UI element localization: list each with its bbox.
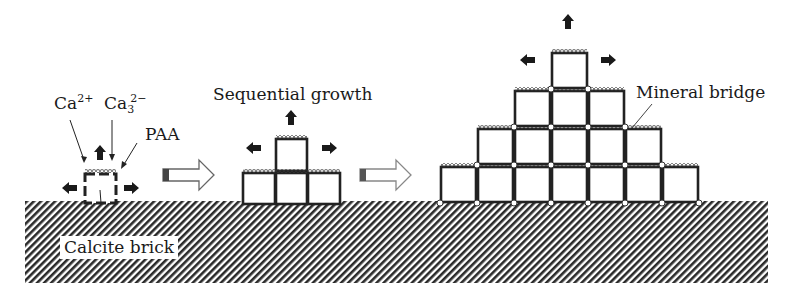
carbonate-ion-label: Ca32−: [104, 93, 146, 115]
mineral-bridge-node: [585, 200, 591, 206]
ca-ion-label: Ca2+: [54, 93, 93, 112]
mineral-bridge-node: [622, 124, 628, 130]
calcite-brick: [478, 129, 513, 164]
calcite-brick: [663, 167, 698, 202]
calcite-brick: [626, 167, 661, 202]
sequential-growth-label: Sequential growth: [213, 86, 372, 103]
mineral-bridge-node: [511, 162, 517, 168]
mineral-bridge-node: [585, 86, 591, 92]
calcite-brick-label: Calcite brick: [60, 236, 178, 259]
calcite-brick: [441, 167, 476, 202]
mineral-bridge-node: [622, 162, 628, 168]
calcite-brick: [552, 53, 587, 88]
stage-sequential-growth: [243, 110, 340, 204]
mineral-bridge-node: [548, 162, 554, 168]
growth-diagram: [0, 0, 792, 305]
mineral-bridge-node: [622, 200, 628, 206]
solid-arrow-icon: [520, 54, 535, 66]
calcite-brick: [626, 129, 661, 164]
calcite-brick: [515, 91, 550, 126]
calcite-brick: [552, 129, 587, 164]
solid-arrow-icon: [562, 14, 574, 29]
stage-nucleus: [62, 120, 139, 203]
calcite-brick: [589, 167, 624, 202]
calcite-brick: [552, 167, 587, 202]
mineral-bridge-node: [548, 200, 554, 206]
mineral-bridge-node: [511, 124, 517, 130]
mineral-bridge-node: [474, 200, 480, 206]
mineral-bridge-node: [511, 200, 517, 206]
mineral-bridge-node: [585, 124, 591, 130]
mineral-bridge-node: [437, 200, 443, 206]
calcite-brick: [515, 129, 550, 164]
paa-label: PAA: [145, 126, 179, 143]
mineral-bridge-node: [548, 124, 554, 130]
stage-pyramid: [437, 14, 702, 206]
mineral-bridge-node: [585, 162, 591, 168]
hollow-arrow-icon: [360, 160, 411, 190]
calcite-brick: [552, 91, 587, 126]
mineral-bridge-node: [548, 86, 554, 92]
mineral-bridge-node: [474, 162, 480, 168]
calcite-brick: [589, 91, 624, 126]
mineral-bridge-node: [659, 162, 665, 168]
solid-arrow-icon: [601, 54, 616, 66]
mineral-bridge-node: [696, 200, 702, 206]
hollow-arrow-icon: [163, 160, 214, 190]
mineral-bridge-label: Mineral bridge: [636, 84, 765, 101]
calcite-brick: [515, 167, 550, 202]
calcite-brick: [478, 167, 513, 202]
calcite-brick: [589, 129, 624, 164]
mineral-bridge-node: [659, 200, 665, 206]
